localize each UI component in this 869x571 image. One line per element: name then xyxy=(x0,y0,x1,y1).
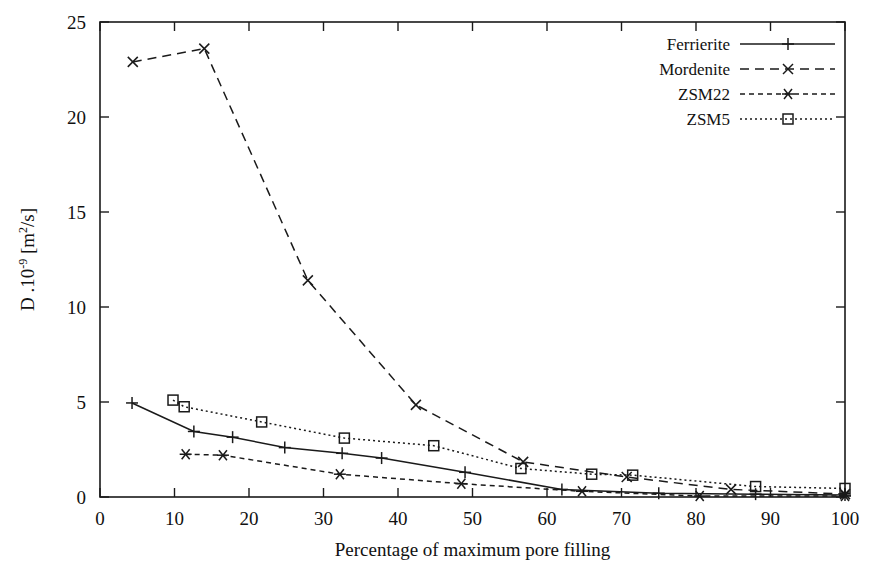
x-tick-label: 0 xyxy=(95,508,105,529)
x-tick-label: 70 xyxy=(612,508,631,529)
x-tick-label: 50 xyxy=(463,508,482,529)
y-tick-label: 5 xyxy=(77,392,87,413)
y-axis-label: D .10-9 [m2/s] xyxy=(16,208,38,311)
legend-label: ZSM22 xyxy=(678,85,730,104)
legend-item-zsm22[interactable]: ZSM22 xyxy=(678,85,835,104)
y-tick-label: 10 xyxy=(67,297,86,318)
chart-legend: FerrieriteMordeniteZSM22ZSM5 xyxy=(659,35,835,129)
plot-frame xyxy=(100,22,845,497)
x-tick-label: 60 xyxy=(538,508,557,529)
x-axis-label: Percentage of maximum pore filling xyxy=(335,539,611,560)
x-tick-label: 20 xyxy=(240,508,259,529)
chart-svg: 01020304050607080901000510152025Percenta… xyxy=(0,0,869,571)
x-tick-label: 90 xyxy=(761,508,780,529)
legend-item-ferrierite[interactable]: Ferrierite xyxy=(667,35,835,54)
x-tick-label: 100 xyxy=(831,508,860,529)
y-tick-label: 15 xyxy=(67,202,86,223)
legend-label: Mordenite xyxy=(659,60,730,79)
x-tick-label: 30 xyxy=(314,508,333,529)
x-tick-label: 80 xyxy=(687,508,706,529)
series-mordenite xyxy=(128,44,850,500)
x-tick-label: 10 xyxy=(165,508,184,529)
x-tick-label: 40 xyxy=(389,508,408,529)
y-tick-label: 20 xyxy=(67,107,86,128)
y-tick-label: 25 xyxy=(67,12,86,33)
y-tick-label: 0 xyxy=(77,487,87,508)
legend-item-zsm5[interactable]: ZSM5 xyxy=(687,110,835,129)
legend-item-mordenite[interactable]: Mordenite xyxy=(659,60,835,79)
legend-label: ZSM5 xyxy=(687,110,730,129)
chart-figure: 01020304050607080901000510152025Percenta… xyxy=(0,0,869,571)
axis-ticks xyxy=(100,22,845,497)
svg-text:D .10-9 [m2/s]: D .10-9 [m2/s] xyxy=(16,208,38,311)
series-ferrierite xyxy=(126,397,851,501)
legend-label: Ferrierite xyxy=(667,35,730,54)
